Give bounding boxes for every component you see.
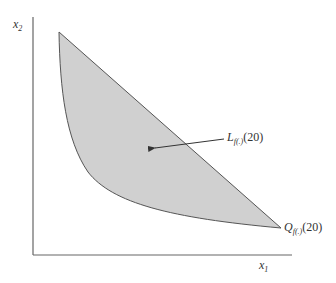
x-axis-label: x1 <box>259 259 268 274</box>
isoquant-label: Qf(.)(20) <box>284 221 322 236</box>
y-axis-label: x2 <box>13 18 22 33</box>
diagram-canvas <box>0 0 336 283</box>
input-requirement-set-label: Lf(.)(20) <box>227 131 263 146</box>
